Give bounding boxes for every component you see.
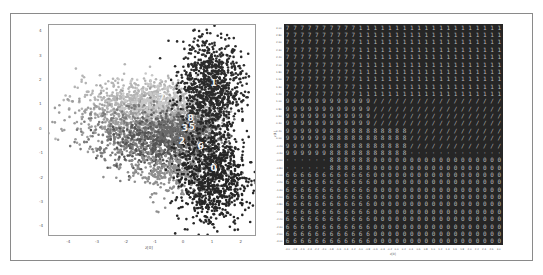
scatter-x-label: z[0] [145,245,153,250]
decoded-digit-cell: 0 [459,238,466,245]
decoded-digit-cell: / [372,98,379,105]
svg-text:1: 1 [211,78,217,88]
decoded-digit-cell: / [474,98,481,105]
y-tick-label: 0.80 [276,108,282,112]
decoded-digit-cell: 0 [488,216,495,223]
y-tick-label: 3 [39,54,42,58]
decoded-digit-cell: 0 [437,157,444,164]
decoded-digit-cell: / [496,135,503,142]
decoded-digit-cell: 6 [335,216,342,223]
x-tick-label: 0 [182,240,185,244]
decoded-digit-cell: 0 [452,238,459,245]
decoded-digit-cell: 1 [496,39,503,46]
decoded-digit-cell: / [408,135,415,142]
decoded-digit-cell: / [459,98,466,105]
decoded-digit-cell: 0 [386,179,393,186]
decoded-digit-cell: / [445,135,452,142]
y-tick-label: 2.40 [276,49,282,53]
y-tick-label: -3 [39,200,43,204]
decoded-digit-cell: 0 [401,238,408,245]
decoded-digit-cell: 1 [445,39,452,46]
decoded-digit-cell: / [496,98,503,105]
decoded-digit-cell: 7 [342,39,349,46]
decoded-digit-cell: 9 [350,98,357,105]
decoded-digit-cell: 0 [415,216,422,223]
y-tick-label: 1.60 [276,78,282,82]
decoded-digit-cell: 6 [328,179,335,186]
decoded-digit-cell: 0 [474,216,481,223]
scatter-svg: 01235678 [49,25,256,236]
decoded-digit-cell: 6 [291,238,298,245]
decoded-digit-cell: 6 [350,179,357,186]
decoded-digit-cell: 6 [284,179,291,186]
decoded-digit-cell: 9 [335,98,342,105]
decoded-digit-cell: 1 [467,53,474,60]
decoded-digit-cell: 1 [386,39,393,46]
y-tick-label: -2.00 [276,211,282,215]
decoded-digit-cell: 0 [481,238,488,245]
decoded-digit-cell: 8 [364,157,371,164]
decoded-digit-cell: 9 [357,98,364,105]
decoded-digit-cell: 0 [394,216,401,223]
y-tick-label: -1 [39,151,43,155]
decoded-digit-cell: 7 [328,39,335,46]
y-tick-label: 2.00 [276,64,282,68]
decoded-digit-cell: 0 [481,216,488,223]
x-tick-label: 3.0 [497,248,501,252]
y-tick-label: 1.80 [276,71,282,75]
decoded-digit-cell: 9 [299,135,306,142]
decoded-digit-cell: 0 [408,238,415,245]
decoded-digit-cell: 6 [284,216,291,223]
decoded-digit-cell: 0 [430,238,437,245]
decoded-digit-cell: 7 [299,39,306,46]
decoded-digit-cell: / [415,135,422,142]
y-tick-label: -4 [39,224,43,228]
x-tick-label: -1 [153,240,157,244]
y-tick-label: -1.20 [276,181,282,185]
decoded-digit-cell: 8 [394,135,401,142]
x-tick-label: 0.4 [409,248,413,252]
decoded-digit-cell: / [467,135,474,142]
decoded-digit-cell: / [445,98,452,105]
svg-text:7: 7 [159,93,165,103]
decoded-digit-cell: 8 [328,157,335,164]
decoded-digit-cell: 1 [357,53,364,60]
decoded-digit-cell: 1 [357,76,364,83]
svg-text:0: 0 [211,163,217,173]
x-tick-label: -2.2 [314,248,319,252]
decoded-digit-cell: / [474,135,481,142]
decoded-digit-cell: 7 [306,53,313,60]
y-tick-label: 1.20 [276,93,282,97]
decoded-digit-cell: 0 [467,216,474,223]
decoded-digit-cell: 1 [401,39,408,46]
decoded-digit-cell: 1 [452,53,459,60]
decoded-digit-cell: 1 [488,39,495,46]
decoded-digit-cell: 1 [496,76,503,83]
decoded-digit-cell: 0 [423,157,430,164]
decoded-digit-cell: 6 [313,238,320,245]
x-tick-label: 1 [211,240,214,244]
decoded-digit-cell: 0 [445,179,452,186]
decoded-digit-cell: 7 [335,39,342,46]
decoded-digit-cell: 9 [291,98,298,105]
decoded-digit-cell: 7 [335,76,342,83]
decoded-digit-cell: 1 [423,53,430,60]
decoded-digit-cell: 0 [445,216,452,223]
decoded-digit-cell: 0 [452,179,459,186]
x-tick-label: 1.0 [431,248,435,252]
decoded-digit-cell: 0 [379,216,386,223]
x-tick-label: -0.8 [365,248,370,252]
decoded-digit-cell: 1 [437,39,444,46]
y-tick-label: -2.40 [276,226,282,230]
x-tick-label: 1.6 [453,248,457,252]
decoded-digit-cell: 0 [452,157,459,164]
decoded-digit-cell: 1 [459,39,466,46]
latent-scatter-panel: 01235678 [48,24,256,236]
decoded-digit-cell: 1 [481,76,488,83]
decoded-digit-cell: 1 [379,39,386,46]
x-tick-label: 0.6 [416,248,420,252]
decoded-digit-cell: 9 [306,135,313,142]
decoded-digit-cell: 7 [313,39,320,46]
decoded-digit-cell: 0 [379,238,386,245]
decoded-digit-cell: 8 [335,135,342,142]
